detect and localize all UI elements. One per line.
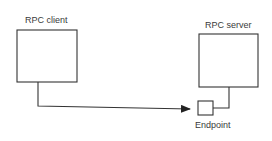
diagram-svg: RPC client RPC server Endpoint	[0, 0, 272, 141]
server-to-endpoint-connector	[213, 87, 229, 108]
rpc-client-node: RPC client	[17, 15, 77, 82]
rpc-client-label: RPC client	[25, 15, 68, 25]
endpoint-box	[198, 101, 213, 115]
rpc-diagram: RPC client RPC server Endpoint	[0, 0, 272, 141]
endpoint-node: Endpoint	[195, 101, 231, 130]
client-to-endpoint-arrow	[38, 82, 190, 109]
rpc-server-box	[199, 34, 258, 87]
rpc-server-node: RPC server	[199, 20, 258, 87]
rpc-client-box	[17, 30, 77, 82]
endpoint-label: Endpoint	[195, 120, 231, 130]
rpc-server-label: RPC server	[205, 20, 252, 30]
